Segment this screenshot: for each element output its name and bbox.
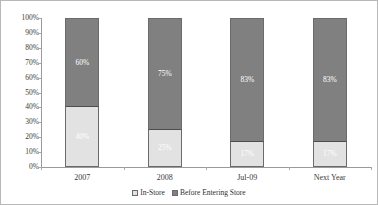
x-axis-tick-mark (41, 167, 42, 170)
y-axis-tick-labels: 100%90%80%70%60%50%40%30%20%10%0% (1, 1, 39, 205)
bar-segment-before-entering-store[interactable]: 83% (230, 18, 264, 142)
x-axis-tick-mark (206, 167, 207, 170)
y-axis-tick-label: 90% (3, 29, 39, 37)
bar-segment-before-entering-store[interactable]: 75% (148, 18, 182, 130)
chart-legend: In-StoreBefore Entering Store (1, 189, 377, 197)
bar-segment-label: 17% (323, 150, 337, 158)
x-axis-category-label: Next Year (314, 173, 346, 183)
bar-segment-label: 40% (75, 133, 89, 141)
legend-swatch-icon (172, 190, 178, 196)
stacked-bar[interactable]: 75%25% (148, 18, 182, 167)
y-axis-tick-label: 30% (3, 118, 39, 126)
bar-group: 83%17% (313, 18, 347, 167)
bar-segment-in-store[interactable]: 17% (313, 142, 347, 167)
legend-item[interactable]: Before Entering Store (172, 189, 246, 197)
x-axis-category-label: Jul-09 (237, 173, 257, 183)
bar-segment-in-store[interactable]: 17% (230, 142, 264, 167)
stacked-bar[interactable]: 83%17% (230, 18, 264, 167)
y-axis-tick-label: 40% (3, 103, 39, 111)
bar-segment-label: 83% (323, 76, 337, 84)
y-axis-tick-label: 20% (3, 133, 39, 141)
x-axis-category-label: 2007 (74, 173, 90, 183)
bar-segment-before-entering-store[interactable]: 60% (65, 18, 99, 107)
bar-segment-before-entering-store[interactable]: 83% (313, 18, 347, 142)
chart-container: 100%90%80%70%60%50%40%30%20%10%0% 60%40%… (0, 0, 378, 205)
bar-segment-label: 17% (240, 150, 254, 158)
x-axis-category-label: 2008 (157, 173, 173, 183)
y-axis-tick-label: 80% (3, 44, 39, 52)
x-axis-tick-mark (124, 167, 125, 170)
y-axis-tick-label: 0% (3, 163, 39, 171)
legend-label: Before Entering Store (180, 189, 246, 197)
bar-segment-label: 60% (75, 59, 89, 67)
bar-group: 75%25% (148, 18, 182, 167)
y-axis-tick-label: 10% (3, 148, 39, 156)
bar-segment-label: 25% (158, 144, 172, 152)
stacked-bar[interactable]: 83%17% (313, 18, 347, 167)
stacked-bar[interactable]: 60%40% (65, 18, 99, 167)
y-axis-tick-label: 100% (3, 14, 39, 22)
y-axis-tick-label: 50% (3, 89, 39, 97)
legend-swatch-icon (132, 190, 138, 196)
y-axis-tick-label: 60% (3, 74, 39, 82)
legend-label: In-Store (140, 189, 165, 197)
y-axis-tick-label: 70% (3, 59, 39, 67)
bar-group: 83%17% (230, 18, 264, 167)
bar-segment-label: 83% (240, 76, 254, 84)
bar-segment-in-store[interactable]: 25% (148, 130, 182, 167)
bar-group: 60%40% (65, 18, 99, 167)
x-axis-tick-mark (371, 167, 372, 170)
legend-item[interactable]: In-Store (132, 189, 165, 197)
plot-area: 60%40%75%25%83%17%83%17% (41, 18, 371, 167)
x-axis-tick-mark (289, 167, 290, 170)
bar-segment-label: 75% (158, 70, 172, 78)
bar-segment-in-store[interactable]: 40% (65, 107, 99, 167)
